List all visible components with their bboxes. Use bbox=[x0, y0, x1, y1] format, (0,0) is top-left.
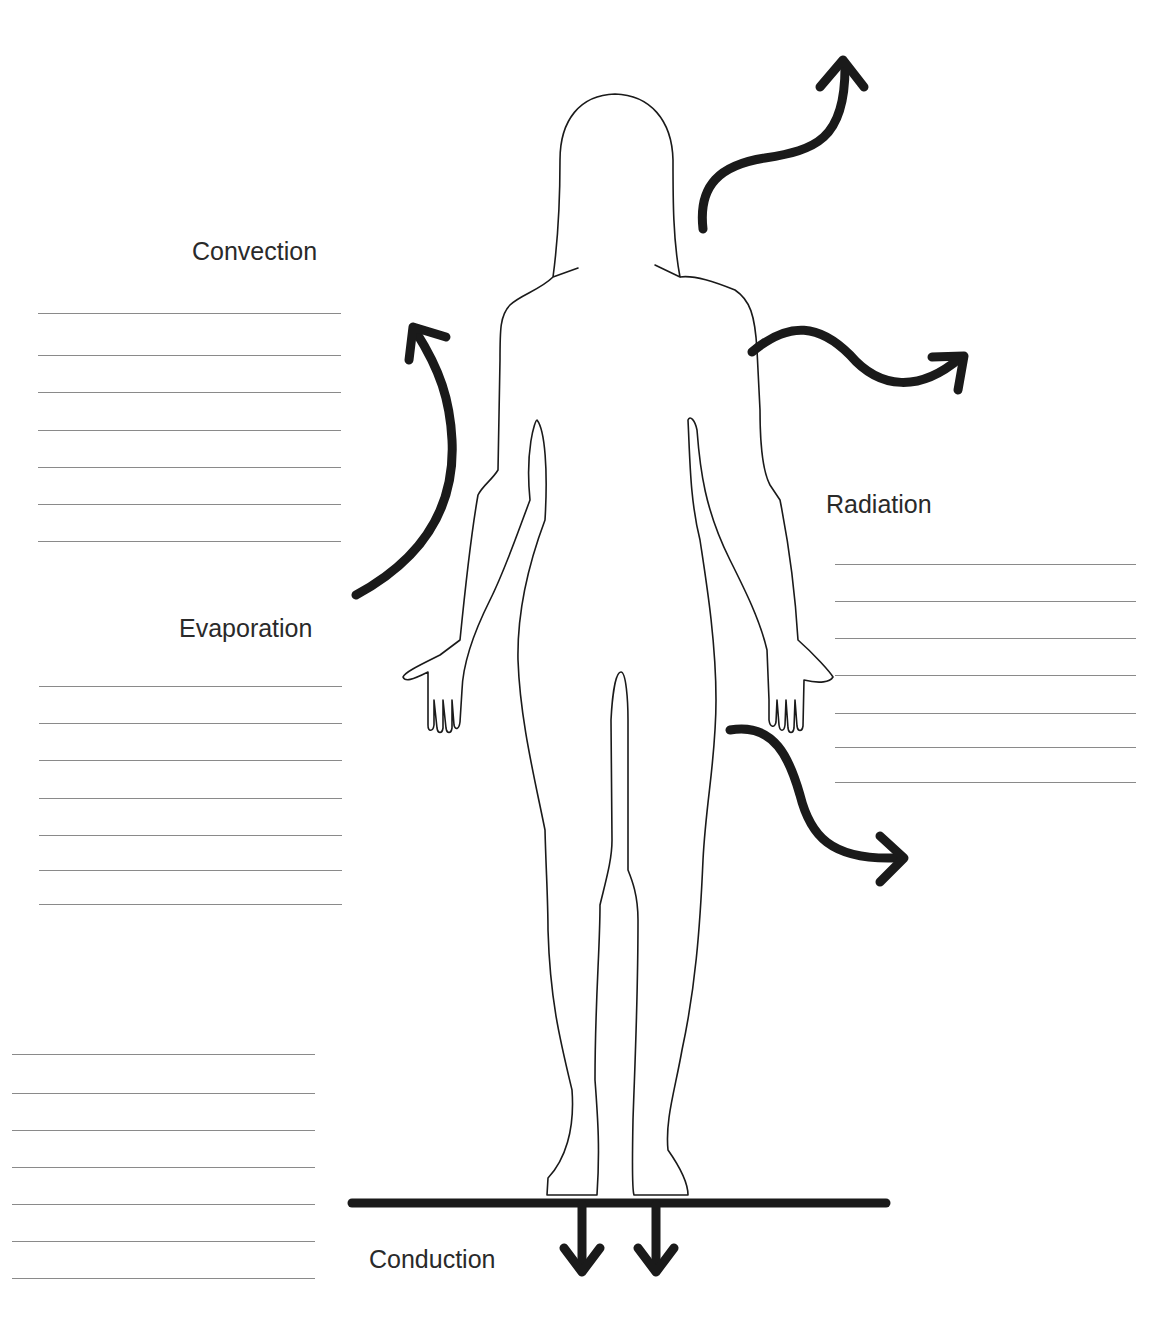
answer-line[interactable] bbox=[835, 564, 1136, 565]
diagram-canvas bbox=[0, 0, 1164, 1324]
answer-line[interactable] bbox=[835, 601, 1136, 602]
answer-line[interactable] bbox=[39, 723, 342, 724]
answer-line[interactable] bbox=[38, 467, 341, 468]
label-radiation: Radiation bbox=[826, 490, 932, 519]
answer-line[interactable] bbox=[39, 760, 342, 761]
answer-line[interactable] bbox=[12, 1204, 315, 1205]
answer-line[interactable] bbox=[835, 675, 1136, 676]
answer-line[interactable] bbox=[12, 1093, 315, 1094]
answer-line[interactable] bbox=[39, 904, 342, 905]
conduction-arrow-left bbox=[564, 1205, 600, 1272]
answer-line[interactable] bbox=[38, 313, 341, 314]
answer-line[interactable] bbox=[38, 541, 341, 542]
answer-line[interactable] bbox=[38, 392, 341, 393]
radiation-arrow-middle bbox=[752, 330, 964, 390]
answer-line[interactable] bbox=[38, 430, 341, 431]
label-evaporation: Evaporation bbox=[179, 614, 312, 643]
answer-line[interactable] bbox=[39, 798, 342, 799]
answer-line[interactable] bbox=[12, 1054, 315, 1055]
answer-line[interactable] bbox=[12, 1241, 315, 1242]
answer-line[interactable] bbox=[835, 782, 1136, 783]
answer-line[interactable] bbox=[835, 747, 1136, 748]
answer-line[interactable] bbox=[39, 870, 342, 871]
answer-line[interactable] bbox=[39, 686, 342, 687]
answer-line[interactable] bbox=[835, 713, 1136, 714]
answer-line[interactable] bbox=[835, 638, 1136, 639]
answer-line[interactable] bbox=[38, 504, 341, 505]
convection-arrow bbox=[356, 327, 452, 595]
body-outline bbox=[403, 94, 833, 1195]
radiation-arrow-upper bbox=[702, 60, 864, 229]
label-conduction: Conduction bbox=[369, 1245, 495, 1274]
answer-line[interactable] bbox=[38, 355, 341, 356]
answer-line[interactable] bbox=[39, 835, 342, 836]
answer-line[interactable] bbox=[12, 1167, 315, 1168]
conduction-arrow-right bbox=[638, 1205, 674, 1272]
answer-line[interactable] bbox=[12, 1130, 315, 1131]
label-convection: Convection bbox=[192, 237, 317, 266]
radiation-arrow-lower bbox=[730, 729, 904, 882]
answer-line[interactable] bbox=[12, 1278, 315, 1279]
